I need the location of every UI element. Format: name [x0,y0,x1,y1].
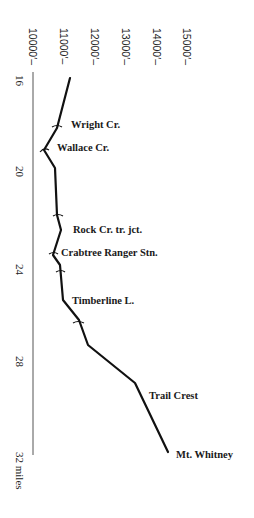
label-mt-whitney: Mt. Whitney [176,449,234,460]
label-wright-cr: Wright Cr. [71,119,120,130]
elev-tick-12000: 12000′– [89,28,101,65]
label-timberline-l: Timberline L. [72,295,135,306]
mile-tick-16: 16 [14,75,26,87]
place-labels: Wright Cr. Wallace Cr. Rock Cr. tr. jct.… [57,119,234,460]
label-rock-cr-jct: Rock Cr. tr. jct. [73,224,143,235]
label-trail-crest: Trail Crest [149,390,198,401]
mile-tick-28: 28 [14,356,26,368]
elev-tick-13000: 13000′– [120,28,132,65]
elev-tick-15000: 15000′– [181,28,193,65]
distance-axis: 16 20 24 28 32 miles [14,75,26,490]
mile-tick-32: 32 miles [14,452,26,490]
label-crabtree-ranger-stn: Crabtree Ranger Stn. [61,247,158,258]
elev-tick-14000: 14000′– [151,28,163,65]
elev-tick-10000: 10000′– [27,28,39,65]
marker-timberline [73,322,84,324]
elev-tick-11000: 11000′– [58,28,70,64]
label-wallace-cr: Wallace Cr. [57,142,109,153]
mile-tick-24: 24 [14,264,26,276]
elevation-axis: 10000′– 11000′– 12000′– 13000′– 14000′– … [27,28,193,65]
mile-tick-20: 20 [14,166,26,178]
elevation-profile-chart: 10000′– 11000′– 12000′– 13000′– 14000′– … [0,0,254,518]
